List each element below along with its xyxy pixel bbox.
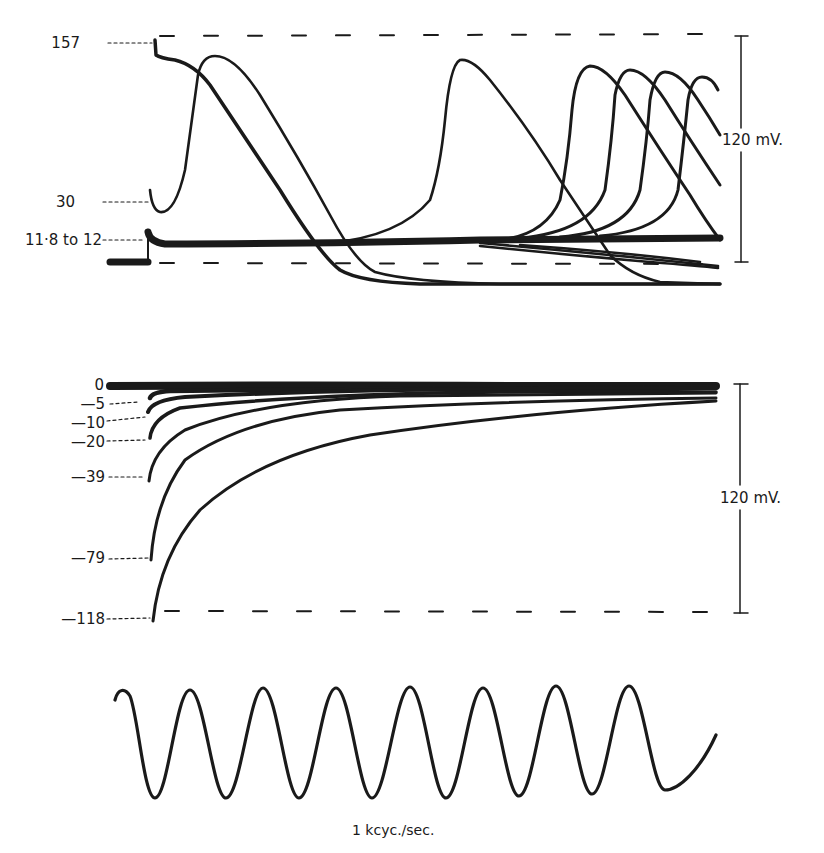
trace-12d <box>560 72 720 237</box>
threshold-bundle <box>148 232 720 244</box>
figure: 157 30 11·8 to 12 120 mV. 0 —5 —10 —20 —… <box>0 0 824 853</box>
lower-dashed-bottom <box>165 611 720 612</box>
lower-leaders <box>107 402 150 619</box>
tick-label-30: 30 <box>56 195 75 210</box>
tick-label-minus-79: —79 <box>71 551 105 566</box>
tick-label-minus-20: —20 <box>71 435 105 450</box>
tick-label-minus-118: —118 <box>61 612 105 627</box>
upper-leaders <box>103 43 152 240</box>
trace-sub-1 <box>480 243 718 266</box>
time-marker-sine <box>115 686 716 798</box>
upper-scale-label: 120 mV. <box>722 131 783 150</box>
tick-label-minus-10: —10 <box>71 416 105 431</box>
trace-m118 <box>153 401 716 621</box>
traces-svg <box>0 0 824 853</box>
lower-scale-label: 120 mV. <box>720 489 781 508</box>
trace-m79 <box>151 398 716 560</box>
time-marker-caption: 1 kcyc./sec. <box>352 822 434 838</box>
trace-157 <box>155 40 720 284</box>
tick-label-157: 157 <box>51 36 80 51</box>
tick-label-minus-5: —5 <box>80 397 105 412</box>
tick-label-0: 0 <box>94 378 104 393</box>
tick-label-11-8-to-12: 11·8 to 12 <box>25 233 102 248</box>
trace-30 <box>150 56 720 284</box>
trace-sub-2 <box>480 246 718 268</box>
upper-dashed-bottom <box>160 263 720 264</box>
upper-dashed-top <box>160 34 720 36</box>
tick-label-minus-39: —39 <box>71 470 105 485</box>
